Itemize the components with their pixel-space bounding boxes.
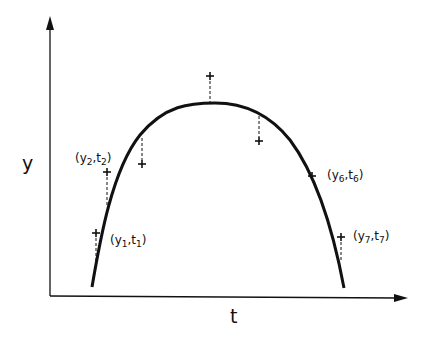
plus-icon (337, 233, 345, 241)
y-axis-arrow-icon (46, 16, 54, 30)
fitted-curve (92, 103, 344, 288)
point-label-7: (y7,t7) (353, 229, 390, 245)
data-points (92, 72, 345, 241)
plus-icon (255, 137, 263, 145)
plus-icon (138, 160, 146, 168)
point-label-2: (y2,t2) (75, 151, 112, 167)
point-label-1: (y1,t1) (110, 233, 147, 249)
plus-icon (92, 229, 100, 237)
plus-icon (103, 168, 111, 176)
curve-fit-diagram: y t (y2,t2) (y1,t1) (y6,t6) (y7,t7) (0, 0, 429, 337)
y-axis-label: y (22, 152, 33, 174)
diagram-canvas: y t (y2,t2) (y1,t1) (y6,t6) (y7,t7) (0, 0, 429, 337)
point-label-6: (y6,t6) (327, 168, 364, 184)
x-axis-label: t (230, 305, 237, 327)
x-axis-arrow-icon (394, 294, 408, 302)
x-axis (50, 296, 398, 298)
plus-icon (206, 72, 214, 80)
